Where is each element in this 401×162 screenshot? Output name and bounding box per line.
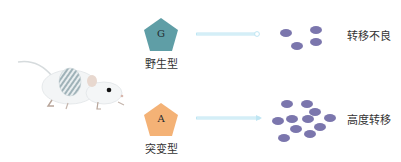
arrow-icon [196, 30, 262, 38]
genotype-letter: A [143, 113, 179, 124]
cell-cluster-low [270, 22, 330, 52]
genotype-letter: G [143, 28, 179, 39]
outcome-label: 高度转移 [347, 111, 391, 127]
mouse-illustration [10, 52, 130, 122]
outcome-label: 转移不良 [347, 27, 391, 43]
genotype-label: 突变型 [136, 140, 186, 156]
cell-cluster-high [270, 97, 340, 142]
genotype-label: 野生型 [136, 55, 186, 71]
arrow-icon [196, 114, 264, 122]
